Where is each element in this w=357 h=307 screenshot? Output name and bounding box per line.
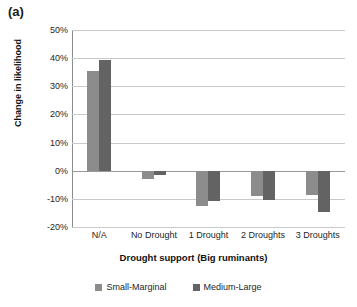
bar bbox=[142, 171, 154, 179]
bar-group bbox=[127, 30, 182, 227]
bar-group bbox=[236, 30, 291, 227]
y-axis-tick-label: -10% bbox=[28, 194, 68, 204]
y-axis-title: Change in likelihood bbox=[13, 18, 23, 148]
legend-label: Small-Marginal bbox=[106, 282, 166, 292]
bars-layer bbox=[72, 30, 345, 227]
bar bbox=[263, 171, 275, 200]
y-axis-tick-label: 30% bbox=[28, 81, 68, 91]
y-axis-tick-label: 20% bbox=[28, 109, 68, 119]
legend-label: Medium-Large bbox=[204, 282, 262, 292]
x-axis-tick-labels: N/ANo Drought1 Drought2 Droughts3 Drough… bbox=[72, 230, 345, 246]
x-axis-title: Drought support (Big ruminants) bbox=[0, 252, 357, 263]
chart-legend: Small-MarginalMedium-Large bbox=[0, 282, 357, 292]
legend-swatch-icon bbox=[95, 284, 102, 291]
x-axis-tick-label: N/A bbox=[92, 230, 107, 240]
bar bbox=[196, 171, 208, 206]
panel-label: (a) bbox=[8, 4, 24, 19]
x-axis-tick-label: 1 Drought bbox=[189, 230, 229, 240]
x-axis-tick-label: 2 Droughts bbox=[241, 230, 285, 240]
chart-figure: (a) Change in likelihood 50%40%30%20%10%… bbox=[0, 0, 357, 307]
plot-area bbox=[72, 30, 345, 227]
bar bbox=[87, 71, 99, 171]
legend-item: Small-Marginal bbox=[95, 282, 166, 292]
x-axis-tick-label: 3 Droughts bbox=[296, 230, 340, 240]
bar-group bbox=[181, 30, 236, 227]
bar-group bbox=[290, 30, 345, 227]
gridline bbox=[72, 227, 345, 228]
bar bbox=[99, 60, 111, 170]
legend-swatch-icon bbox=[193, 284, 200, 291]
y-axis-tick-label: 0% bbox=[28, 166, 68, 176]
bar bbox=[208, 171, 220, 201]
bar bbox=[251, 171, 263, 196]
bar-group bbox=[72, 30, 127, 227]
bar bbox=[306, 171, 318, 195]
legend-item: Medium-Large bbox=[193, 282, 262, 292]
x-axis-tick-label: No Drought bbox=[131, 230, 177, 240]
y-axis-tick-label: -20% bbox=[28, 222, 68, 232]
bar bbox=[154, 171, 166, 176]
y-axis-tick-labels: 50%40%30%20%10%0%-10%-20% bbox=[24, 30, 68, 227]
y-axis-tick-label: 50% bbox=[28, 25, 68, 35]
y-axis-tick-label: 40% bbox=[28, 53, 68, 63]
bar bbox=[318, 171, 330, 213]
y-axis-tick-label: 10% bbox=[28, 138, 68, 148]
